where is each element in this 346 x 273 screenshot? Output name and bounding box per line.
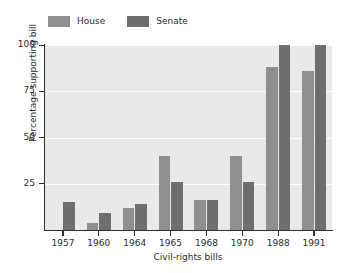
bar-chart-figure: House Senate Percentage supporting bill …	[0, 0, 346, 273]
y-tick-label: 100	[0, 39, 35, 49]
x-tick-mark	[62, 231, 63, 236]
chart-legend: House Senate	[48, 13, 188, 29]
legend-swatch-senate	[127, 16, 149, 27]
bar-senate-1970	[243, 182, 255, 230]
plot-area	[45, 45, 332, 230]
x-tick-mark	[313, 231, 314, 236]
x-tick-label: 1991	[292, 238, 336, 248]
bar-senate-1968	[207, 200, 219, 230]
y-tick-mark	[39, 91, 44, 92]
y-axis-line	[44, 44, 45, 231]
y-tick-mark	[39, 137, 44, 138]
bar-house-1964	[123, 208, 135, 230]
legend-swatch-house	[48, 16, 70, 27]
x-axis-line	[44, 230, 333, 231]
bar-senate-1960	[99, 213, 111, 230]
y-tick-label: 75	[0, 85, 35, 95]
y-tick-label: 25	[0, 178, 35, 188]
x-tick-mark	[278, 231, 279, 236]
bar-house-1968	[194, 200, 206, 230]
x-tick-mark	[98, 231, 99, 236]
bar-house-1970	[230, 156, 242, 230]
legend-label-house: House	[77, 16, 105, 26]
bar-house-1991	[302, 71, 314, 230]
y-tick-mark	[39, 45, 44, 46]
x-tick-mark	[170, 231, 171, 236]
x-tick-mark	[134, 231, 135, 236]
x-tick-mark	[206, 231, 207, 236]
x-tick-mark	[242, 231, 243, 236]
legend-entry-house: House	[48, 16, 105, 27]
bar-house-1960	[87, 223, 99, 230]
y-tick-mark	[39, 183, 44, 184]
y-tick-label: 50	[0, 132, 35, 142]
bar-house-1965	[159, 156, 171, 230]
x-axis-title: Civil-rights bills	[44, 252, 332, 262]
bar-senate-1965	[171, 182, 183, 230]
legend-label-senate: Senate	[156, 16, 188, 26]
bar-house-1988	[266, 67, 278, 230]
bar-senate-1964	[135, 204, 147, 230]
bar-senate-1957	[63, 202, 75, 230]
bar-senate-1988	[279, 45, 291, 230]
bar-senate-1991	[315, 45, 327, 230]
legend-entry-senate: Senate	[127, 16, 188, 27]
